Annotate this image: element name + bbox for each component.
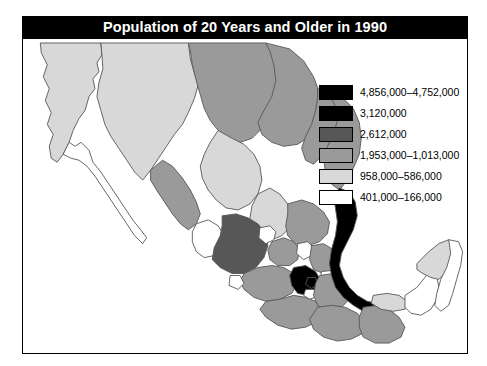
legend-item[interactable]: 4,856,000–4,752,000 <box>319 82 468 103</box>
state-oaxaca[interactable] <box>310 305 366 341</box>
state-chiapas[interactable] <box>359 305 405 343</box>
legend-label-6: 401,000–166,000 <box>360 192 442 203</box>
legend-item[interactable]: 401,000–166,000 <box>319 187 468 208</box>
legend-item[interactable]: 3,120,000 <box>319 103 468 124</box>
state-durango[interactable] <box>200 130 262 209</box>
legend-label-1: 4,856,000–4,752,000 <box>360 87 459 98</box>
map-legend: 4,856,000–4,752,000 3,120,000 2,612,000 … <box>319 82 468 208</box>
figure-title-bar: Population of 20 Years and Older in 1990 <box>22 16 468 38</box>
page-title: Population of 20 Years and Older in 1990 <box>103 19 387 35</box>
legend-label-2: 3,120,000 <box>360 108 407 119</box>
map-figure: Population of 20 Years and Older in 1990 <box>22 16 468 354</box>
legend-item[interactable]: 958,000–586,000 <box>319 166 468 187</box>
legend-swatch-4 <box>319 148 353 163</box>
legend-item[interactable]: 1,953,000–1,013,000 <box>319 145 468 166</box>
legend-swatch-6 <box>319 190 353 205</box>
map-frame: 4,856,000–4,752,000 3,120,000 2,612,000 … <box>22 38 468 354</box>
legend-swatch-1 <box>319 85 353 100</box>
state-sinaloa[interactable] <box>151 160 201 230</box>
legend-label-5: 958,000–586,000 <box>360 171 442 182</box>
legend-label-3: 2,612,000 <box>360 129 407 140</box>
legend-swatch-5 <box>319 169 353 184</box>
legend-swatch-2 <box>319 106 353 121</box>
legend-swatch-3 <box>319 127 353 142</box>
legend-item[interactable]: 2,612,000 <box>319 124 468 145</box>
legend-label-4: 1,953,000–1,013,000 <box>360 150 459 161</box>
state-sonora[interactable] <box>97 43 198 180</box>
